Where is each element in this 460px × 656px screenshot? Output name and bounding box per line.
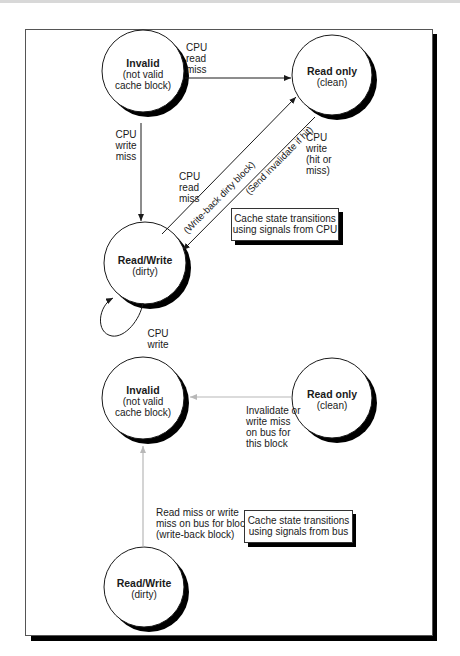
state-title: Read only (292, 389, 372, 400)
state-subtitle: (not valid (103, 69, 183, 80)
label-cpu-read-miss-top: CPU read miss (186, 42, 207, 75)
label-cpu-write-self: CPU write (143, 328, 173, 350)
state-subtitle: (dirty) (104, 589, 184, 600)
label-line: miss) (306, 165, 332, 176)
label-line: (write-back block) (156, 529, 250, 540)
label-line: miss (186, 64, 207, 75)
state-subtitle: cache block) (103, 407, 183, 418)
state-label-invalid-cpu: Invalid (not valid cache block) (103, 58, 183, 91)
label-line: on bus for (246, 427, 300, 438)
state-title: Invalid (103, 385, 183, 396)
state-label-invalid-bus: Invalid (not valid cache block) (103, 385, 183, 418)
state-title: Read only (292, 66, 372, 77)
state-title: Read/Write (105, 255, 185, 266)
label-cpu-write-miss: CPU write miss (114, 129, 138, 162)
caption-line: Cache state transitions (232, 213, 338, 224)
label-line: this block (246, 438, 300, 449)
label-line: write (114, 140, 138, 151)
caption-bus-box: Cache state transitions using signals fr… (244, 510, 353, 543)
state-label-read-only-cpu: Read only (clean) (292, 66, 372, 88)
label-line: miss (114, 151, 138, 162)
state-diagram-canvas (0, 0, 460, 656)
label-line: Read miss or write (156, 507, 250, 518)
state-title: Invalid (103, 58, 183, 69)
label-line: write (143, 339, 173, 350)
label-line: CPU (114, 129, 138, 140)
label-line: miss (179, 193, 200, 204)
label-read-miss-or-write-miss: Read miss or write miss on bus for block… (156, 507, 250, 540)
label-line: CPU (143, 328, 173, 339)
label-line: write (306, 143, 332, 154)
label-line: read (179, 182, 200, 193)
state-label-read-write-bus: Read/Write (dirty) (104, 578, 184, 600)
state-subtitle: (dirty) (105, 266, 185, 277)
label-line: write miss (246, 416, 300, 427)
caption-cpu-box: Cache state transitions using signals fr… (231, 208, 339, 241)
label-cpu-write-hit-or-miss: CPU write (hit or miss) (306, 132, 332, 176)
label-line: Invalidate or (246, 405, 300, 416)
caption-line: Cache state transitions (245, 515, 352, 526)
caption-line: using signals from bus (245, 526, 352, 537)
label-invalidate-or-write-miss: Invalidate or write miss on bus for this… (246, 405, 300, 449)
label-line: (hit or (306, 154, 332, 165)
label-line: read (186, 53, 207, 64)
state-title: Read/Write (104, 578, 184, 589)
state-subtitle: (not valid (103, 396, 183, 407)
state-subtitle: (clean) (292, 77, 372, 88)
caption-line: using signals from CPU (232, 224, 338, 235)
label-line: miss on bus for block (156, 518, 250, 529)
label-line: CPU (186, 42, 207, 53)
label-cpu-read-miss-diag: CPU read miss (179, 171, 200, 204)
state-subtitle: cache block) (103, 80, 183, 91)
state-label-read-write-cpu: Read/Write (dirty) (105, 255, 185, 277)
state-label-read-only-bus: Read only (clean) (292, 389, 372, 411)
label-line: CPU (179, 171, 200, 182)
state-subtitle: (clean) (292, 400, 372, 411)
